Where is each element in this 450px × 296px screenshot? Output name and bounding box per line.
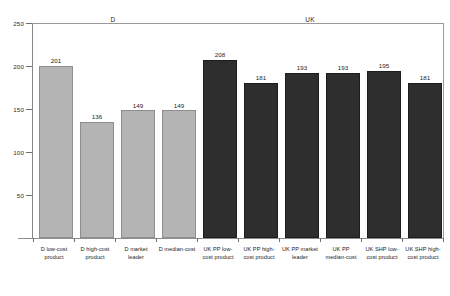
y-tick-label-200: 200 [2, 63, 24, 70]
y-tick-label-50: 50 [2, 192, 24, 199]
x-axis-label-d-median-cost: D median-cost [158, 246, 196, 254]
bar-uk-pp-median-cost[interactable] [326, 73, 360, 238]
x-tick-mark [361, 238, 362, 242]
bar-value-label: 208 [203, 51, 237, 58]
x-tick-mark [115, 238, 116, 242]
x-axis-label-uk-pp-low-cost-product: UK PP low-cost product [199, 246, 237, 261]
bar-value-label: 149 [121, 102, 155, 109]
bar-value-label: 136 [80, 113, 114, 120]
x-tick-mark [279, 238, 280, 242]
bar-uk-shp-high-cost-product[interactable] [408, 83, 442, 238]
bar-value-label: 193 [285, 64, 319, 71]
bar-uk-pp-market-leader[interactable] [285, 73, 319, 238]
y-tick-label-250: 250 [2, 20, 24, 27]
x-tick-mark [74, 238, 75, 242]
group-header-d: D [70, 16, 156, 23]
x-axis-label-d-low-cost-product: D low-cost product [35, 246, 73, 261]
bar-uk-pp-low-cost-product[interactable] [203, 60, 237, 238]
bar-d-high-cost-product[interactable] [80, 122, 114, 238]
x-axis-label-uk-pp-high-cost-product: UK PP high-cost product [240, 246, 278, 261]
bar-d-market-leader[interactable] [121, 110, 155, 238]
x-axis-label-uk-pp-market-leader: UK PP market leader [281, 246, 319, 261]
y-tick-mark-150 [26, 109, 32, 110]
x-axis-line [18, 238, 444, 239]
y-tick-mark-100 [26, 152, 32, 153]
bar-d-low-cost-product[interactable] [39, 66, 73, 238]
y-tick-label-100: 100 [2, 149, 24, 156]
group-header-uk: UK [265, 16, 355, 23]
bar-uk-pp-high-cost-product[interactable] [244, 83, 278, 238]
x-tick-mark [238, 238, 239, 242]
bar-value-label: 201 [39, 57, 73, 64]
bar-d-median-cost[interactable] [162, 110, 196, 238]
y-tick-label-150: 150 [2, 106, 24, 113]
x-axis-label-uk-shp-low-cost-product: UK SHP low-cost product [363, 246, 401, 261]
y-tick-mark-50 [26, 195, 32, 196]
bar-chart: D UK 250 200 150 100 50 201 136 1 [0, 0, 450, 296]
x-tick-mark [443, 238, 444, 242]
x-tick-mark [156, 238, 157, 242]
bar-uk-shp-low-cost-product[interactable] [367, 71, 401, 238]
x-tick-mark [402, 238, 403, 242]
x-tick-mark [33, 238, 34, 242]
bar-value-label: 181 [244, 74, 278, 81]
plot-area [33, 24, 444, 238]
x-tick-mark [197, 238, 198, 242]
x-tick-mark [320, 238, 321, 242]
bar-value-label: 149 [162, 102, 196, 109]
bar-value-label: 181 [408, 74, 442, 81]
x-axis-label-uk-pp-median-cost: UK PP median-cost [322, 246, 360, 261]
x-axis-label-d-high-cost-product: D high-cost product [76, 246, 114, 261]
x-axis-label-uk-shp-high-cost-product: UK SHP high-cost product [404, 246, 442, 261]
x-axis-label-d-market-leader: D market leader [117, 246, 155, 261]
bar-value-label: 193 [326, 64, 360, 71]
y-tick-mark-200 [26, 66, 32, 67]
bar-value-label: 195 [367, 62, 401, 69]
y-tick-mark-250 [26, 23, 32, 24]
